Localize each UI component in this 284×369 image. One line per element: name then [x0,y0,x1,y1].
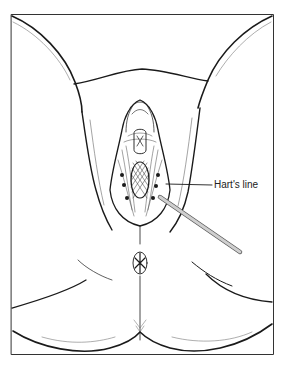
anatomical-illustration: Hart's line [0,0,284,369]
right-thigh-contour [198,16,272,108]
right-buttock [140,324,272,351]
harts-line-label: Hart's line [214,179,258,191]
harts-line-leader [166,184,212,185]
left-buttock [13,331,140,351]
probe [160,197,240,252]
left-thigh-contour [12,16,82,112]
pubic-contour [74,69,208,84]
